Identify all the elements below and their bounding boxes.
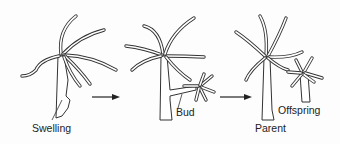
label-offspring: Offspring: [278, 104, 320, 116]
hydra-stage-1: [22, 16, 116, 120]
label-swelling: Swelling: [32, 122, 71, 134]
label-bud: Bud: [176, 106, 195, 118]
arrow-2: [220, 94, 252, 100]
hydra-stage-2: [126, 18, 214, 120]
label-parent: Parent: [255, 122, 286, 134]
hydra-offspring: [288, 58, 322, 102]
arrow-1: [92, 94, 120, 100]
hydra-budding-diagram: Swelling Bud Parent Offspring: [0, 0, 340, 144]
